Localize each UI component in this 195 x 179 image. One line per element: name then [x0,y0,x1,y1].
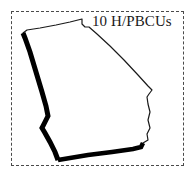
dashed-frame-border [11,11,184,166]
hbcu-count-label: 10 H/PBCUs [92,13,172,30]
georgia-map-figure: 10 H/PBCUs [0,0,195,179]
